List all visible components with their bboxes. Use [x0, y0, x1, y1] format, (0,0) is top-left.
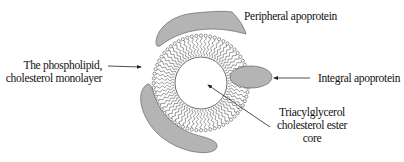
- integral-apoprotein: [230, 66, 272, 88]
- lipid-core: [175, 57, 227, 109]
- lipoprotein-diagram: Peripheral apoprotein The phospholipid, …: [0, 0, 404, 162]
- monolayer-arrow: [108, 66, 141, 67]
- peripheral-apoprotein-top: [156, 11, 246, 46]
- monolayer-label-line1: The phospholipid,: [16, 59, 102, 72]
- core-label-line2: cholesterol ester: [270, 119, 354, 132]
- core-label-line1: Triacylglycerol: [270, 106, 354, 119]
- core-label-line3: core: [270, 132, 354, 145]
- monolayer-label-line2: cholesterol monolayer: [0, 72, 102, 85]
- peripheral-apoprotein-label: Peripheral apoprotein: [244, 10, 337, 23]
- integral-apoprotein-label: Integral apoprotein: [318, 72, 400, 85]
